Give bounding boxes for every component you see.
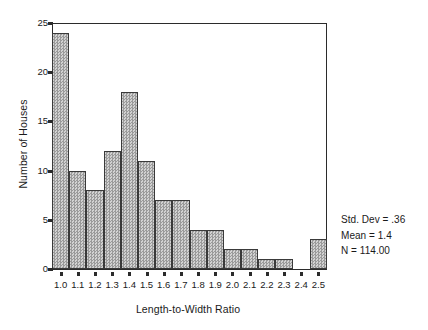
histogram-figure: Number of Houses 0510152025 1.01.11.21.3…: [0, 0, 428, 330]
y-tick-label: 25: [37, 17, 48, 28]
x-tick-mark: [197, 272, 200, 276]
histogram-bar: [275, 259, 292, 269]
x-tick-mark: [77, 272, 80, 276]
x-tick-mark: [60, 272, 63, 276]
histogram-bar: [69, 171, 86, 269]
plot-area: 0510152025 1.01.11.21.31.41.51.61.71.81.…: [52, 23, 327, 270]
x-tick-mark: [128, 272, 131, 276]
y-tick-label: 10: [37, 165, 48, 176]
histogram-bar: [241, 249, 258, 269]
x-tick-mark: [163, 272, 166, 276]
y-tick-mark: [48, 120, 53, 123]
n-text: N = 114.00: [341, 243, 405, 259]
histogram-bar: [207, 230, 224, 269]
x-tick-mark: [146, 272, 149, 276]
histogram-bar: [310, 239, 327, 269]
x-tick-mark: [283, 272, 286, 276]
x-tick-mark: [266, 272, 269, 276]
y-tick-label: 20: [37, 66, 48, 77]
statistics-annotation: Std. Dev = .36 Mean = 1.4 N = 114.00: [341, 212, 405, 259]
x-tick-mark: [300, 272, 303, 276]
x-tick-mark: [317, 272, 320, 276]
histogram-bar: [104, 151, 121, 269]
histogram-bar: [52, 33, 69, 269]
histogram-bar: [172, 200, 189, 269]
x-tick-mark: [249, 272, 252, 276]
histogram-bar: [138, 161, 155, 269]
y-tick-mark: [48, 219, 53, 222]
std-dev-text: Std. Dev = .36: [341, 212, 405, 228]
y-tick-mark: [48, 71, 53, 74]
x-axis-label: Length-to-Width Ratio: [48, 303, 328, 315]
histogram-bar: [224, 249, 241, 269]
y-tick-mark: [48, 170, 53, 173]
y-tick-label: 0: [43, 263, 48, 274]
histogram-bar: [86, 190, 103, 269]
y-tick-mark: [48, 22, 53, 25]
bar-series: [52, 23, 327, 270]
y-tick-label: 5: [43, 214, 48, 225]
histogram-bar: [258, 259, 275, 269]
x-tick-mark: [231, 272, 234, 276]
histogram-bar: [155, 200, 172, 269]
x-tick-mark: [214, 272, 217, 276]
y-axis-label: Number of Houses: [17, 64, 29, 224]
x-tick-label: 2.5: [306, 279, 330, 290]
x-tick-mark: [111, 272, 114, 276]
histogram-bar: [190, 230, 207, 269]
y-tick-label: 15: [37, 115, 48, 126]
x-tick-mark: [94, 272, 97, 276]
histogram-bar: [121, 92, 138, 269]
x-tick-mark: [180, 272, 183, 276]
y-tick-mark: [48, 268, 53, 271]
mean-text: Mean = 1.4: [341, 228, 405, 244]
